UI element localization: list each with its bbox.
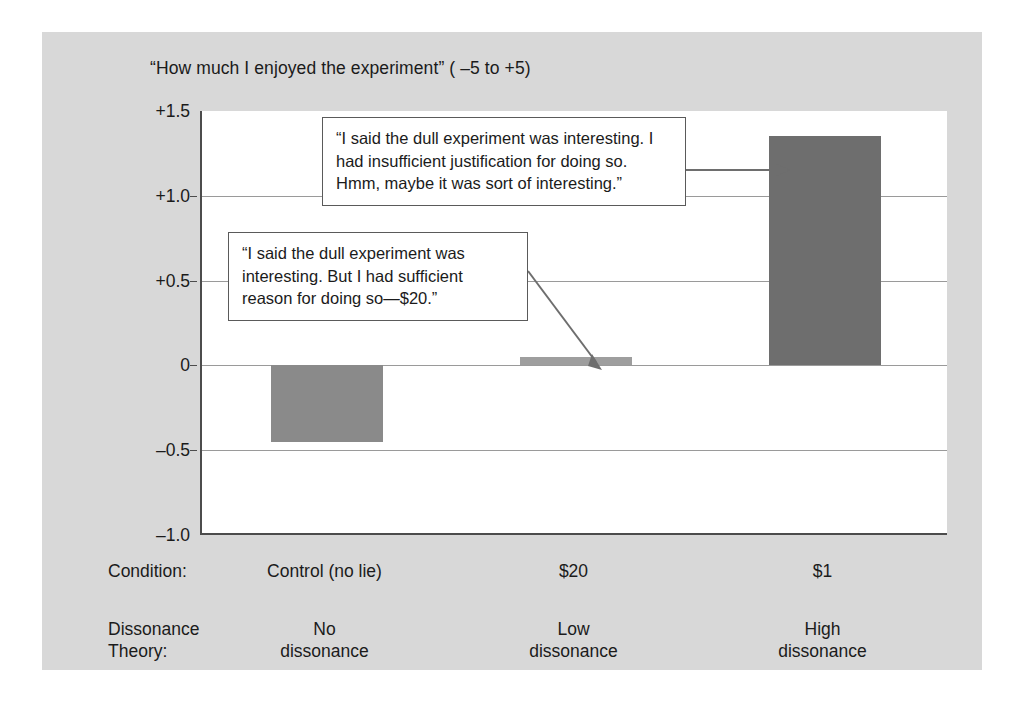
y-tick-label: +1.0	[155, 185, 190, 206]
row-header-condition: Condition:	[108, 560, 187, 582]
chart-title: “How much I enjoyed the experiment” ( –5…	[150, 58, 531, 79]
y-tick-label: 0	[180, 355, 190, 376]
y-tick-label: +0.5	[155, 270, 190, 291]
y-tick-mark	[190, 450, 197, 451]
axis-cell-r1-c1: Low dissonance	[464, 618, 684, 663]
figure-panel: “How much I enjoyed the experiment” ( –5…	[42, 32, 982, 670]
row-header-dissonance-theory: Dissonance Theory:	[108, 618, 199, 663]
y-tick-mark	[190, 281, 197, 282]
bar-20	[520, 357, 632, 365]
y-tick-mark	[190, 196, 197, 197]
callout-high-dissonance: “I said the dull experiment was interest…	[322, 117, 686, 206]
y-tick-label: +1.5	[155, 101, 190, 122]
y-tick-mark	[190, 365, 197, 366]
y-tick-label: –0.5	[156, 440, 190, 461]
axis-cell-r0-c1: $20	[464, 560, 684, 582]
bar-control-no-lie	[271, 365, 383, 441]
axis-cell-r1-c0: No dissonance	[215, 618, 435, 663]
axis-cell-r0-c2: $1	[713, 560, 933, 582]
axis-cell-r0-c0: Control (no lie)	[215, 560, 435, 582]
axis-label-rows: Condition:Control (no lie)$20$1Dissonanc…	[42, 540, 982, 670]
y-axis: +1.5+1.0+0.50–0.5–1.0	[134, 111, 190, 535]
callout-low-dissonance: “I said the dull experiment was interest…	[228, 232, 528, 321]
bar-1	[769, 136, 881, 365]
gridline	[202, 450, 947, 451]
axis-cell-r1-c2: High dissonance	[713, 618, 933, 663]
